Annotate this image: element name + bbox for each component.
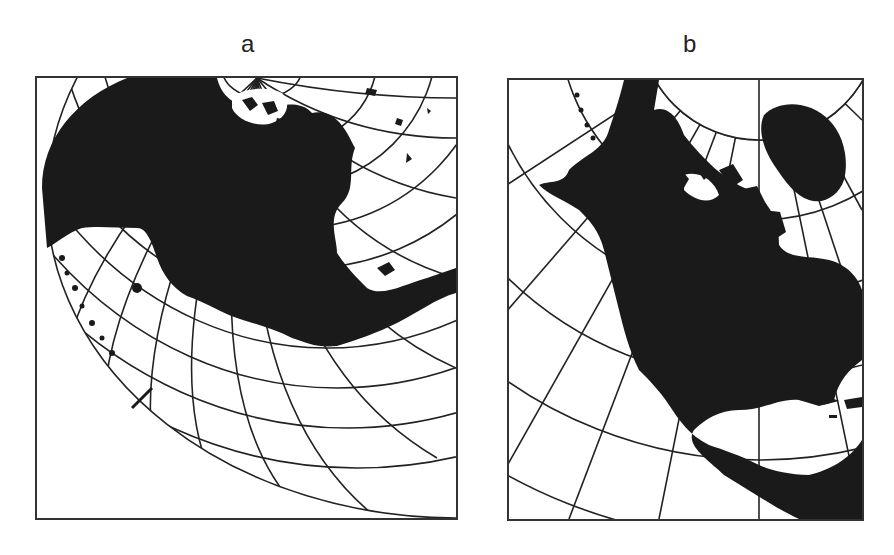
panel-a-label: a — [241, 30, 254, 58]
panel-b-label: b — [683, 30, 696, 58]
map-panel-b — [507, 78, 864, 521]
map-a-svg — [37, 78, 456, 518]
aleutians-b — [575, 93, 604, 155]
greenland-b — [761, 104, 846, 201]
map-b-svg — [509, 80, 862, 519]
map-panel-a — [35, 76, 458, 520]
